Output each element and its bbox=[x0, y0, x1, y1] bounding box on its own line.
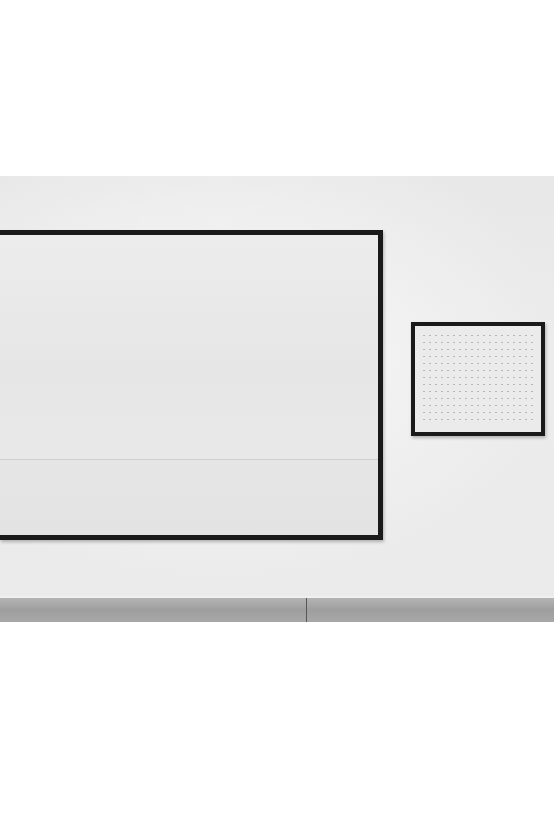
floor-joint bbox=[306, 598, 307, 622]
gallery-floor bbox=[0, 598, 554, 622]
painting-lower-panel bbox=[0, 460, 378, 535]
large-framed-painting bbox=[0, 230, 383, 540]
small-framed-artwork bbox=[411, 322, 545, 436]
gallery-photo bbox=[0, 176, 554, 622]
painting-upper-panel bbox=[0, 235, 378, 459]
dot-grid-pattern bbox=[421, 332, 535, 426]
